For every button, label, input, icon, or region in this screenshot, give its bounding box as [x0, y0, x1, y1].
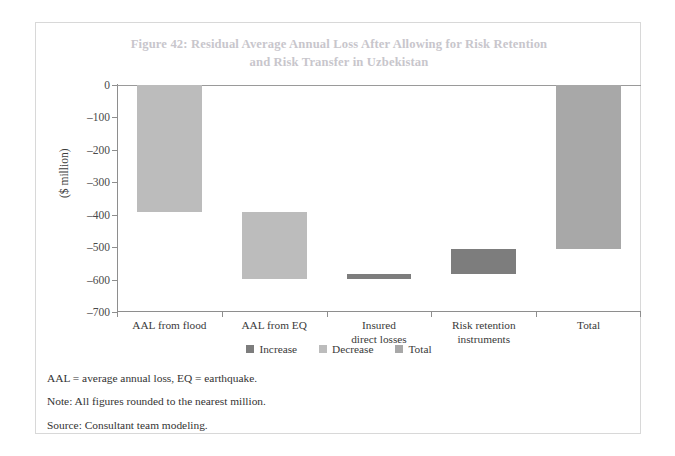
bar-increase — [451, 249, 516, 273]
category-label-line: Total — [536, 319, 641, 333]
y-tick-label: –400 — [87, 209, 110, 221]
category-label-line: AAL from flood — [117, 319, 222, 333]
y-tick-label: –700 — [87, 306, 110, 318]
bar-increase — [347, 274, 412, 280]
legend-item-total[interactable]: Total — [395, 343, 431, 355]
legend-swatch-icon — [395, 345, 403, 353]
y-tick-mark — [112, 215, 117, 216]
legend-label: Decrease — [332, 343, 373, 355]
y-axis-title: ($ million) — [58, 148, 70, 198]
figure-title-line2: and Risk Transfer in Uzbekistan — [250, 55, 429, 69]
y-tick-mark — [112, 182, 117, 183]
y-tick-label: –600 — [87, 274, 110, 286]
figure-notes: AAL = average annual loss, EQ = earthqua… — [47, 371, 607, 441]
legend-item-decrease[interactable]: Decrease — [319, 343, 373, 355]
figure-title-line1: Figure 42: Residual Average Annual Loss … — [131, 37, 548, 51]
y-tick-mark — [112, 85, 117, 86]
chart-legend: IncreaseDecreaseTotal — [36, 343, 642, 355]
category-label-line: Risk retention — [431, 319, 536, 333]
x-axis-line — [117, 311, 641, 312]
y-tick-mark — [112, 150, 117, 151]
legend-swatch-icon — [246, 345, 254, 353]
y-tick-label: –500 — [87, 241, 110, 253]
y-tick-mark — [112, 280, 117, 281]
category-label-4: Total — [536, 319, 641, 333]
x-tick-mark — [222, 312, 223, 317]
bar-decrease — [137, 85, 202, 212]
legend-label: Total — [408, 343, 431, 355]
legend-item-increase[interactable]: Increase — [246, 343, 297, 355]
bar-total — [556, 85, 621, 249]
plot-area: 0–100–200–300–400–500–600–700 AAL from f… — [117, 85, 641, 312]
figure-title: Figure 42: Residual Average Annual Loss … — [96, 35, 582, 72]
y-tick-label: 0 — [104, 79, 110, 91]
category-label-0: AAL from flood — [117, 319, 222, 333]
legend-label: Increase — [259, 343, 297, 355]
category-label-line: AAL from EQ — [222, 319, 327, 333]
y-tick-mark — [112, 117, 117, 118]
bar-decrease — [242, 212, 307, 279]
y-tick-label: –300 — [87, 176, 110, 188]
x-tick-mark — [117, 312, 118, 317]
x-tick-mark — [640, 312, 641, 317]
note-line-0: AAL = average annual loss, EQ = earthqua… — [47, 371, 607, 385]
x-tick-mark — [431, 312, 432, 317]
x-tick-mark — [327, 312, 328, 317]
legend-swatch-icon — [319, 345, 327, 353]
note-line-1: Note: All figures rounded to the nearest… — [47, 394, 607, 408]
category-label-line: Insured — [327, 319, 432, 333]
note-line-2: Source: Consultant team modeling. — [47, 418, 607, 432]
y-axis-line — [117, 84, 118, 313]
figure-frame: Figure 42: Residual Average Annual Loss … — [35, 22, 641, 434]
category-label-1: AAL from EQ — [222, 319, 327, 333]
y-tick-mark — [112, 247, 117, 248]
x-tick-mark — [536, 312, 537, 317]
y-tick-label: –100 — [87, 111, 110, 123]
y-tick-label: –200 — [87, 144, 110, 156]
